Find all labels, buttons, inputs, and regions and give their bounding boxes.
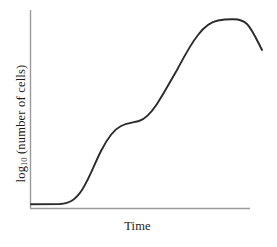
plot-area — [0, 0, 277, 247]
x-axis-label: Time — [0, 219, 277, 234]
growth-curve-path — [31, 19, 262, 204]
y-axis-label-prefix: log — [14, 166, 28, 183]
y-axis-label: log10 (number of cells) — [8, 0, 34, 247]
y-axis-label-suffix: (number of cells) — [14, 65, 28, 158]
y-axis-label-subscript: 10 — [19, 157, 29, 166]
x-axis-label-text: Time — [124, 219, 151, 234]
growth-curve-figure: log10 (number of cells) Time — [0, 0, 277, 247]
